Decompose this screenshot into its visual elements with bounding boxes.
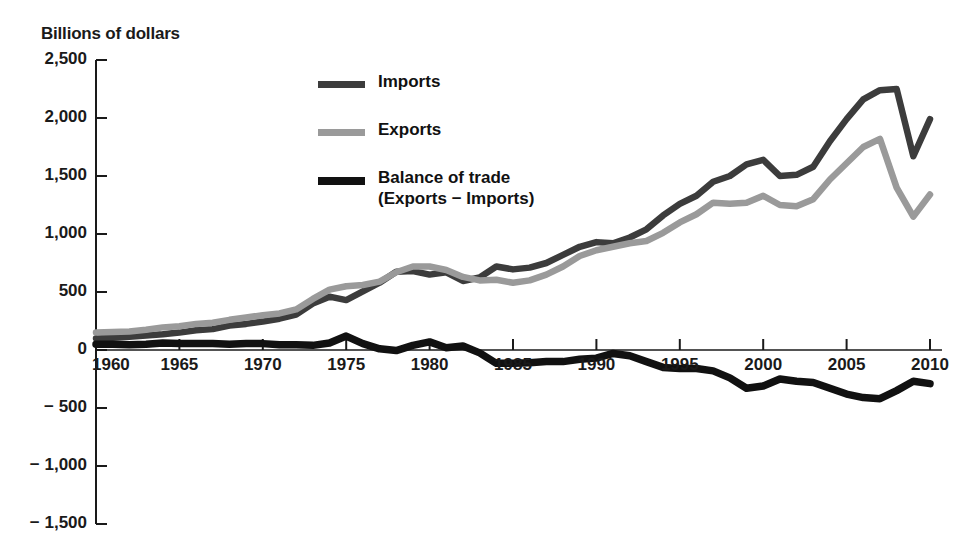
y-axis-tick-label: 1,000 <box>44 223 87 243</box>
x-axis-tick-label: 1995 <box>650 355 710 375</box>
series-line-imports <box>96 89 930 338</box>
y-axis-tick-label: 0 <box>78 339 87 359</box>
chart-figure: Billions of dollars 2,5002,0001,5001,000… <box>0 0 975 554</box>
legend-swatch-exports <box>318 129 365 136</box>
x-axis-tick-label: 1975 <box>316 355 376 375</box>
y-axis-tick-label: − 1,000 <box>30 455 87 475</box>
y-axis-tick-label: 2,500 <box>44 49 87 69</box>
x-axis-tick-label: 1970 <box>233 355 293 375</box>
x-axis-tick-label: 2010 <box>900 355 960 375</box>
x-axis-tick-label: 1985 <box>483 355 543 375</box>
x-axis-tick-label: 1960 <box>92 355 152 375</box>
y-axis-tick-label: 1,500 <box>44 165 87 185</box>
legend-item-label: Imports <box>378 72 440 92</box>
y-axis-tick-label: − 1,500 <box>30 513 87 533</box>
x-axis-tick-label: 1965 <box>149 355 209 375</box>
y-axis-tick-label: 2,000 <box>44 107 87 127</box>
axis-group <box>96 60 942 524</box>
x-axis-tick-label: 1980 <box>400 355 460 375</box>
plot-area <box>0 0 975 554</box>
x-axis-tick-label: 1990 <box>566 355 626 375</box>
x-axis-tick-label: 2000 <box>733 355 793 375</box>
legend-swatch-balance <box>318 177 365 185</box>
legend-swatch-imports <box>318 81 365 88</box>
legend-item-label: Exports <box>378 120 441 140</box>
legend-item-sublabel: (Exports − Imports) <box>378 189 534 209</box>
y-axis-tick-label: 500 <box>59 281 87 301</box>
legend-item-label: Balance of trade <box>378 168 510 188</box>
x-axis-tick-label: 2005 <box>817 355 877 375</box>
y-axis-tick-label: − 500 <box>44 397 87 417</box>
series-group <box>96 89 930 399</box>
